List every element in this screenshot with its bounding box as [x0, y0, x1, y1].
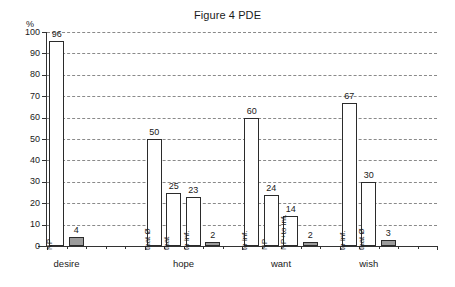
gridline — [47, 32, 437, 33]
x-axis-tick-mark — [106, 246, 107, 249]
gridline — [47, 160, 437, 161]
x-axis-tick-mark — [379, 246, 380, 249]
bar-category-label: that — [163, 237, 171, 250]
x-axis-tick-mark — [223, 246, 224, 249]
x-axis-tick-mark — [320, 246, 321, 249]
y-axis-tick-label: 0 — [14, 242, 40, 251]
x-axis-tick-mark — [437, 246, 438, 250]
x-axis-tick-mark — [86, 246, 87, 249]
y-axis-tick-mark — [42, 75, 47, 76]
y-axis-tick-label: 50 — [14, 135, 40, 144]
y-axis-tick-label: 20 — [14, 199, 40, 208]
bar-value-label: 30 — [355, 171, 382, 180]
bar-category-label: to inf. — [183, 230, 191, 250]
bar-value-label: 60 — [238, 107, 265, 116]
y-axis-tick-label: 90 — [14, 49, 40, 58]
gridline — [47, 75, 437, 76]
chart-title: Figure 4 PDE — [0, 9, 455, 21]
bar-category-label: NP+to inf. — [280, 215, 288, 250]
x-axis-tick-mark — [67, 246, 68, 249]
y-axis-tick-label: 80 — [14, 70, 40, 79]
y-axis-tick-label: 70 — [14, 92, 40, 101]
y-axis-tick-mark — [42, 182, 47, 183]
bar-category-label: to inf. — [339, 230, 347, 250]
bar-category-label: that Ø — [144, 228, 152, 250]
bar-value-label: 2 — [199, 231, 226, 240]
x-axis-tick-mark — [125, 246, 126, 249]
bar[interactable] — [69, 237, 84, 246]
figure-pde-chart: Figure 4 PDE % 0102030405060708090100 96… — [0, 0, 455, 287]
bar-value-label: 67 — [336, 92, 363, 101]
y-axis-tick-mark — [42, 160, 47, 161]
bar-category-label: NP — [46, 239, 54, 250]
bar-value-label: 96 — [43, 30, 70, 39]
gridline — [47, 139, 437, 140]
bar[interactable] — [303, 242, 318, 246]
bar[interactable] — [49, 41, 64, 246]
y-axis-tick-mark — [42, 139, 47, 140]
y-axis-tick-mark — [42, 225, 47, 226]
x-axis-tick-mark — [301, 246, 302, 249]
gridline — [47, 182, 437, 183]
bar-category-label: that Ø — [358, 228, 366, 250]
y-axis-tick-mark — [42, 203, 47, 204]
y-axis-tick-label: 60 — [14, 113, 40, 122]
bar-value-label: 4 — [63, 226, 90, 235]
y-axis-tick-label: 10 — [14, 220, 40, 229]
gridline — [47, 225, 437, 226]
x-axis-category-label: desire — [27, 258, 106, 269]
y-axis-tick-label: 30 — [14, 177, 40, 186]
gridline — [47, 96, 437, 97]
bar-category-label: NP — [261, 239, 269, 250]
gridline — [47, 53, 437, 54]
x-axis-tick-mark — [203, 246, 204, 249]
bar-value-label: 14 — [277, 205, 304, 214]
bar-value-label: 2 — [297, 231, 324, 240]
gridline — [47, 203, 437, 204]
bar-category-label: to inf. — [241, 230, 249, 250]
bar-value-label: 24 — [258, 184, 285, 193]
bar[interactable] — [381, 240, 396, 246]
bar[interactable] — [244, 118, 259, 246]
bar-value-label: 3 — [375, 229, 402, 238]
y-axis-tick-label: 40 — [14, 156, 40, 165]
y-axis-tick-label: 100 — [14, 28, 40, 37]
bar[interactable] — [205, 242, 220, 246]
bar-value-label: 23 — [180, 186, 207, 195]
x-axis-category-label: wish — [320, 258, 419, 269]
x-axis-tick-mark — [398, 246, 399, 249]
bar-value-label: 50 — [141, 128, 168, 137]
y-axis-tick-mark — [42, 53, 47, 54]
y-axis-tick-mark — [42, 96, 47, 97]
gridline — [47, 118, 437, 119]
y-axis-tick-mark — [42, 118, 47, 119]
x-axis-tick-mark — [418, 246, 419, 249]
